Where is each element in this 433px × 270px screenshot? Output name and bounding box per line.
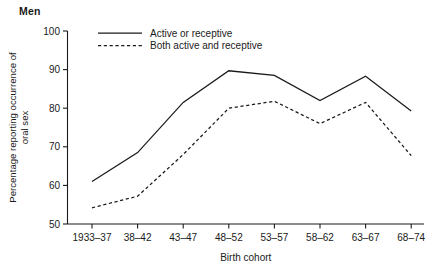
y-tick-label: 70 [49, 141, 61, 152]
x-axis-title: Birth cohort [220, 252, 271, 263]
x-tick-label: 38–42 [124, 232, 152, 243]
x-tick-label: 63–67 [352, 232, 380, 243]
x-axis-ticks: 1933–3738–4243–4748–5253–5758–6263–6768–… [73, 224, 426, 243]
series-line-2 [92, 101, 411, 208]
y-tick-label: 50 [49, 219, 61, 230]
line-chart: 5060708090100 1933–3738–4243–4748–5253–5… [0, 0, 433, 270]
y-tick-label: 60 [49, 180, 61, 191]
legend-label-1: Active or receptive [150, 28, 233, 39]
x-tick-label: 1933–37 [73, 232, 112, 243]
data-series-group [92, 71, 411, 208]
series-line-1 [92, 71, 411, 182]
y-tick-label: 80 [49, 103, 61, 114]
y-axis-title-line-2: oral sex [19, 111, 30, 145]
y-axis-title-line-1: Percentage reporting occurrence of [7, 52, 18, 203]
y-axis-ticks: 5060708090100 [43, 26, 67, 230]
x-tick-label: 58–62 [306, 232, 334, 243]
legend-label-2: Both active and receptive [150, 40, 263, 51]
chart-axes [68, 31, 425, 224]
x-tick-label: 68–74 [397, 232, 425, 243]
y-tick-label: 90 [49, 64, 61, 75]
x-tick-label: 43–47 [169, 232, 197, 243]
chart-container: Men 5060708090100 1933–3738–4243–4748–52… [0, 0, 433, 270]
chart-legend: Active or receptiveBoth active and recep… [98, 28, 263, 52]
x-tick-label: 48–52 [215, 232, 243, 243]
x-tick-label: 53–57 [260, 232, 288, 243]
y-tick-label: 100 [43, 26, 60, 37]
